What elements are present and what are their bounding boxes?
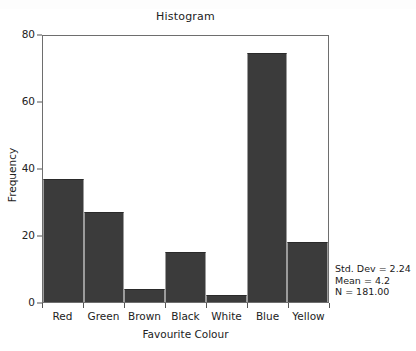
bar-red — [43, 179, 84, 302]
histogram-figure: Histogram Frequency 0 20 40 60 80 — [0, 0, 416, 351]
bar-series — [43, 36, 328, 302]
y-axis: Frequency 0 20 40 60 80 — [0, 35, 42, 303]
y-tick-20: 20 — [0, 236, 42, 237]
bar-green — [84, 212, 125, 302]
y-tick-label-80: 80 — [22, 28, 35, 40]
x-tick-labels: RedGreenBrownBlackWhiteBlueYellow — [42, 310, 329, 322]
y-tick-label-60: 60 — [22, 95, 35, 107]
stat-std-dev: Std. Dev = 2.24 — [335, 263, 411, 275]
y-tick-60: 60 — [0, 102, 42, 103]
x-label-yellow: Yellow — [288, 310, 329, 322]
stat-mean: Mean = 4.2 — [335, 275, 411, 287]
x-tick-mark-6 — [288, 303, 289, 308]
x-axis: RedGreenBrownBlackWhiteBlueYellow Favour… — [42, 303, 329, 349]
y-tick-label-40: 40 — [22, 162, 35, 174]
y-tick-label-0: 0 — [28, 296, 35, 308]
plot-area — [42, 35, 329, 303]
x-label-green: Green — [83, 310, 124, 322]
plot-inner — [43, 36, 328, 302]
x-tick-mark-1 — [83, 303, 84, 308]
bar-blue — [247, 53, 288, 302]
bar-brown — [124, 289, 165, 302]
bar-white — [206, 295, 247, 302]
stat-n: N = 181.00 — [335, 286, 411, 298]
x-axis-title: Favourite Colour — [42, 328, 329, 340]
x-tick-mark-4 — [206, 303, 207, 308]
bar-black — [165, 252, 206, 302]
x-label-white: White — [206, 310, 247, 322]
x-label-blue: Blue — [247, 310, 288, 322]
x-tick-marks — [42, 303, 329, 308]
x-tick-mark-3 — [165, 303, 166, 308]
x-tick-mark-0 — [42, 303, 43, 308]
y-tick-40: 40 — [0, 169, 42, 170]
x-label-black: Black — [165, 310, 206, 322]
x-tick-mark-5 — [247, 303, 248, 308]
y-tick-0: 0 — [0, 303, 42, 304]
statistics-annotation: Std. Dev = 2.24 Mean = 4.2 N = 181.00 — [335, 263, 411, 298]
y-axis-title: Frequency — [6, 100, 18, 250]
x-label-brown: Brown — [124, 310, 165, 322]
bar-yellow — [287, 242, 328, 302]
x-label-red: Red — [42, 310, 83, 322]
y-tick-80: 80 — [0, 35, 42, 36]
y-tick-label-20: 20 — [22, 229, 35, 241]
scan-artifact — [0, 0, 416, 9]
chart-title: Histogram — [42, 10, 329, 23]
x-tick-mark-2 — [124, 303, 125, 308]
x-tick-mark-7 — [329, 303, 330, 308]
